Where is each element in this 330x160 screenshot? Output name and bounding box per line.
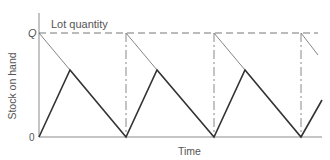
depletion-line bbox=[301, 33, 318, 55]
x-axis-label: Time bbox=[178, 145, 201, 157]
stock-on-hand-line bbox=[39, 70, 322, 137]
depletion-line bbox=[126, 33, 157, 70]
lot-quantity-label: Lot quantity bbox=[51, 18, 108, 30]
q-tick-label: Q bbox=[28, 27, 37, 39]
depletion-line bbox=[214, 33, 245, 70]
depletion-line bbox=[39, 33, 70, 70]
inventory-sawtooth-chart: Lot quantity Q 0 Stock on hand Time bbox=[0, 0, 330, 160]
zero-tick-label: 0 bbox=[29, 132, 35, 143]
depletion-lines bbox=[39, 33, 318, 70]
y-axis-label: Stock on hand bbox=[6, 52, 18, 119]
replenishment-markers bbox=[126, 33, 301, 137]
